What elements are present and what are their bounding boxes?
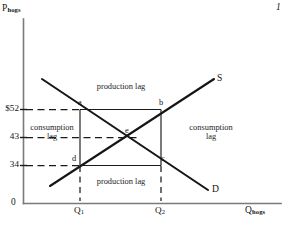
q2-subscript: 2 (162, 208, 165, 215)
point-label-a: a (78, 98, 82, 107)
y-axis-title: Phogs (2, 3, 21, 14)
price-tick-label-43: 43 (0, 132, 19, 142)
region-left-line1: consumption (30, 123, 73, 132)
point-label-e: e (125, 126, 129, 135)
quantity-tick-label-q2: Q2 (155, 206, 165, 216)
region-label-top-production-lag: production lag (74, 82, 168, 91)
price-tick-label-34: 34 (0, 160, 19, 170)
price-tick-label-52: $52 (0, 104, 19, 114)
x-axis-title: Qhogs (245, 205, 265, 216)
region-left-line2: lag (47, 132, 57, 141)
region-right-line1: consumption (189, 123, 232, 132)
axis-lines (24, 19, 282, 204)
x-axis-title-base: Q (245, 205, 252, 215)
region-right-line2: lag (206, 132, 216, 141)
region-label-left-consumption-lag: consumption lag (24, 123, 80, 141)
cobweb-diagram-figure: Phogs Qhogs 0 $52 43 34 Q1 Q2 S D a b e … (0, 0, 293, 226)
region-bottom-line1: production lag (97, 177, 146, 186)
demand-curve-label: D (212, 184, 219, 194)
supply-curve-label: S (217, 73, 222, 83)
q1-base: Q (74, 205, 81, 215)
figure-number-label: 1 (276, 2, 281, 12)
chart-drawing-surface (0, 0, 293, 226)
x-axis-title-subscript: hogs (252, 208, 265, 215)
q1-subscript: 1 (81, 208, 84, 215)
point-label-b: b (159, 98, 163, 107)
point-label-d: d (72, 154, 76, 163)
quantity-tick-label-q1: Q1 (74, 206, 84, 216)
origin-label: 0 (11, 197, 16, 207)
q2-base: Q (155, 205, 162, 215)
region-top-line1: production lag (97, 82, 146, 91)
region-label-right-consumption-lag: consumption lag (166, 123, 256, 141)
y-axis-title-subscript: hogs (7, 6, 20, 13)
point-label-c: c (161, 154, 165, 163)
region-label-bottom-production-lag: production lag (74, 177, 168, 186)
